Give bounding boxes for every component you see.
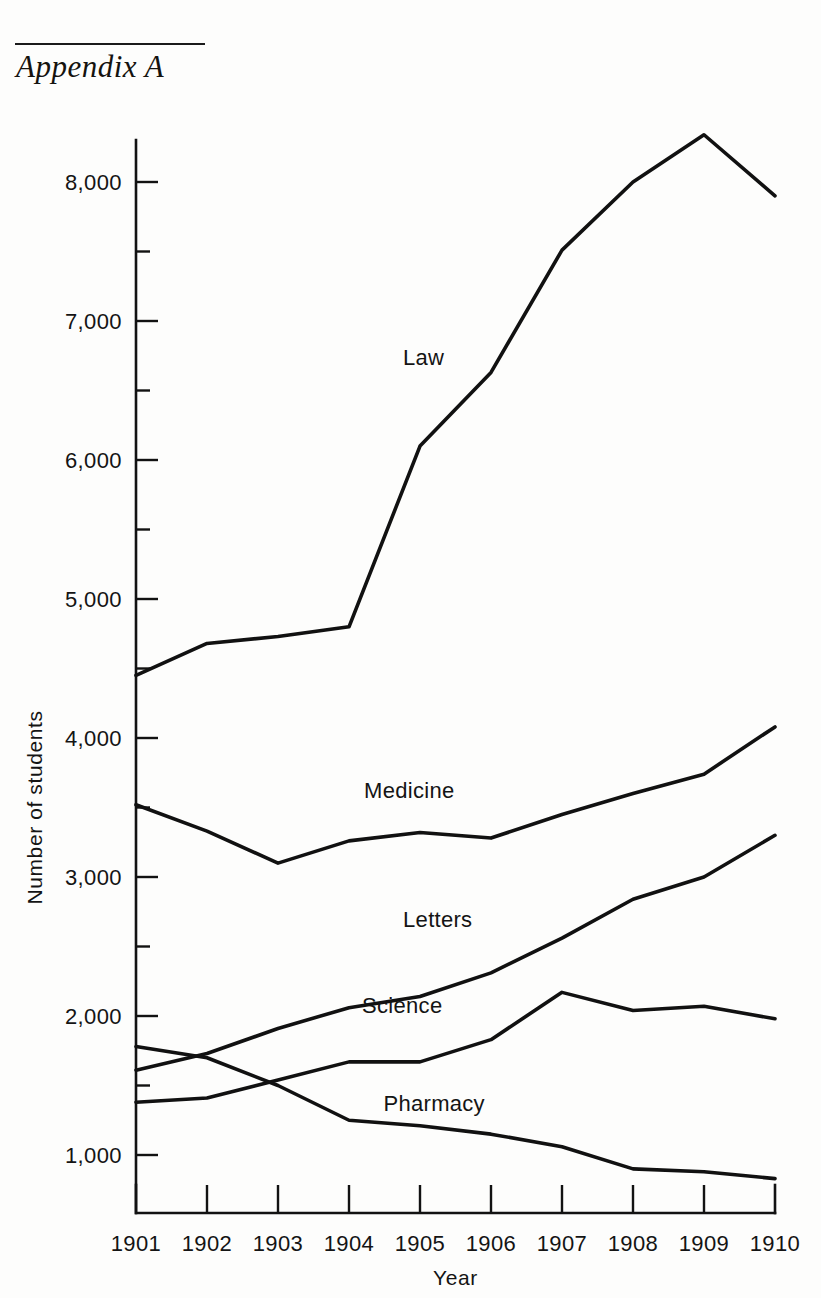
y-tick-label: 2,000 — [65, 1004, 122, 1029]
series-label-pharmacy: Pharmacy — [383, 1091, 484, 1116]
x-tick-label: 1903 — [253, 1231, 304, 1256]
x-tick-label: 1908 — [608, 1231, 659, 1256]
x-tick-label: 1909 — [679, 1231, 730, 1256]
y-tick-label: 5,000 — [65, 587, 122, 612]
x-axis-title: Year — [433, 1266, 478, 1289]
x-tick-label: 1902 — [182, 1231, 233, 1256]
header-rule — [15, 43, 205, 45]
x-tick-label: 1905 — [395, 1231, 446, 1256]
page-canvas: Appendix A 1,0002,0003,0004,0005,0006,00… — [0, 0, 821, 1298]
x-tick-label: 1907 — [537, 1231, 588, 1256]
chart-figure: 1,0002,0003,0004,0005,0006,0007,0008,000… — [0, 100, 821, 1298]
series-line-science — [136, 992, 775, 1102]
series-line-letters — [136, 835, 775, 1070]
series-label-letters: Letters — [403, 907, 472, 932]
series-line-medicine — [136, 727, 775, 863]
series-label-law: Law — [403, 345, 444, 370]
chart-ticks — [136, 182, 704, 1213]
x-tick-label: 1906 — [466, 1231, 517, 1256]
chart-series-lines — [136, 135, 775, 1179]
x-axis-tick-labels: 1901190219031904190519061907190819091910 — [111, 1231, 801, 1256]
series-label-science: Science — [362, 993, 442, 1018]
y-tick-label: 6,000 — [65, 448, 122, 473]
x-tick-label: 1910 — [750, 1231, 801, 1256]
line-chart: 1,0002,0003,0004,0005,0006,0007,0008,000… — [0, 100, 821, 1298]
y-axis-title: Number of students — [23, 710, 46, 904]
y-tick-label: 4,000 — [65, 726, 122, 751]
y-tick-label: 8,000 — [65, 170, 122, 195]
y-tick-label: 1,000 — [65, 1143, 122, 1168]
chart-series-labels: LawMedicineLettersSciencePharmacy — [362, 345, 485, 1115]
series-line-law — [136, 135, 775, 676]
y-axis-tick-labels: 1,0002,0003,0004,0005,0006,0007,0008,000 — [65, 170, 122, 1168]
x-tick-label: 1904 — [324, 1231, 375, 1256]
x-tick-label: 1901 — [111, 1231, 162, 1256]
y-tick-label: 3,000 — [65, 865, 122, 890]
page-title: Appendix A — [16, 49, 164, 85]
series-label-medicine: Medicine — [364, 778, 454, 803]
y-tick-label: 7,000 — [65, 309, 122, 334]
